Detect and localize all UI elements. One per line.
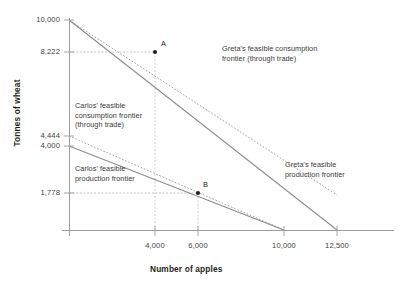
x-tick-label-10000: 10,000 [259,241,309,250]
annotation-carlos-production-frontier: Carlos' feasible production frontier [75,164,185,183]
annotation-carlos-consumption-frontier: Carlos' feasible consumption frontier (t… [75,101,185,130]
y-tick-label-8222: 8,222 [0,47,60,56]
y-tick-label-10000: 10,000 [0,15,60,24]
y-tick-label-4444: 4,444 [0,131,60,140]
y-tick-label-4000: 4,000 [0,141,60,150]
annotation-greta-consumption-frontier: Greta's feasible consumption frontier (t… [222,44,387,63]
series-carlos-production-frontier [69,146,284,230]
x-tick-label-6000: 6,000 [173,241,223,250]
x-tick-label-12500: 12,500 [312,241,362,250]
data-point-label-a: A [161,39,166,48]
data-point-label-b: B [203,180,208,189]
y-axis-title: Tonnes of wheat [12,76,22,150]
data-point-a [153,50,157,54]
annotation-greta-production-frontier: Greta's feasible production frontier [285,160,395,179]
guide-lines [69,52,198,230]
x-axis-title: Number of apples [150,264,222,274]
y-tick-label-1778: 1,778 [0,188,60,197]
data-point-b [196,191,200,195]
chart-figure: 10,000 8,222 4,444 4,000 1,778 4,000 6,0… [0,0,403,283]
